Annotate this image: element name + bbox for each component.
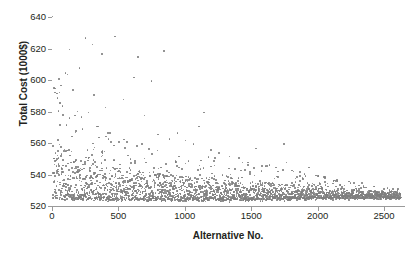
data-point: [101, 170, 103, 172]
data-point: [176, 175, 178, 177]
data-point: [361, 182, 363, 184]
data-point: [85, 176, 87, 178]
data-point: [118, 141, 120, 143]
data-point: [106, 167, 108, 169]
data-point: [72, 89, 74, 91]
data-point: [102, 152, 104, 154]
data-point: [87, 149, 89, 151]
data-point: [136, 145, 138, 147]
data-point: [235, 182, 237, 184]
data-point: [149, 175, 151, 177]
data-point: [400, 197, 402, 199]
data-point: [74, 115, 76, 117]
data-point: [228, 168, 230, 170]
data-point: [66, 198, 68, 200]
data-point: [296, 200, 298, 202]
data-point: [53, 197, 55, 199]
data-point: [120, 171, 122, 173]
data-point: [216, 195, 218, 197]
data-point: [149, 172, 151, 174]
data-point: [229, 156, 231, 158]
data-point: [100, 187, 102, 189]
data-point: [157, 134, 159, 136]
data-point: [52, 145, 54, 147]
data-point: [86, 175, 88, 177]
data-point: [218, 152, 220, 154]
data-point: [178, 196, 180, 198]
data-point: [126, 141, 128, 143]
data-point: [185, 201, 187, 203]
data-point: [70, 162, 72, 164]
data-point: [122, 175, 124, 177]
data-point: [98, 137, 100, 139]
data-point: [61, 153, 63, 155]
data-point: [360, 187, 362, 189]
data-point: [68, 169, 70, 171]
data-point: [116, 168, 118, 170]
y-tick-label: 600: [18, 75, 46, 85]
data-point: [175, 187, 177, 189]
data-point: [250, 182, 252, 184]
data-point: [58, 110, 60, 112]
data-point: [134, 162, 136, 164]
data-point: [317, 185, 319, 187]
data-point: [324, 176, 326, 178]
data-point: [63, 179, 65, 181]
data-point: [55, 192, 57, 194]
data-point: [94, 183, 96, 185]
data-point: [80, 160, 82, 162]
data-point: [109, 132, 111, 134]
data-point: [354, 189, 356, 191]
data-point: [70, 185, 72, 187]
data-point: [196, 181, 198, 183]
x-tick-label: 1500: [231, 211, 271, 221]
data-point: [113, 145, 115, 147]
data-point: [169, 189, 171, 191]
data-point: [57, 139, 59, 141]
data-point: [135, 185, 137, 187]
data-point: [142, 186, 144, 188]
scatter-chart-figure: Total Cost (1000$) Alternative No. 52054…: [0, 0, 413, 255]
data-point: [81, 181, 83, 183]
data-point: [214, 175, 216, 177]
data-point: [89, 167, 91, 169]
data-point: [191, 192, 193, 194]
data-point: [91, 154, 93, 156]
data-point: [122, 192, 124, 194]
data-point: [59, 103, 61, 105]
data-point: [175, 161, 177, 163]
data-point: [237, 180, 239, 182]
data-point: [180, 181, 182, 183]
data-point: [283, 143, 285, 145]
data-point: [299, 175, 301, 177]
data-point: [54, 180, 56, 182]
data-point: [185, 140, 187, 142]
data-point: [77, 111, 79, 113]
data-point: [287, 184, 289, 186]
data-point: [261, 165, 263, 167]
data-point: [281, 188, 283, 190]
data-point: [242, 190, 244, 192]
data-point: [229, 201, 231, 203]
data-point: [60, 85, 62, 87]
data-point: [55, 160, 57, 162]
data-point: [135, 182, 137, 184]
data-point: [159, 173, 161, 175]
data-point: [122, 185, 124, 187]
data-point: [69, 190, 71, 192]
data-point: [57, 155, 59, 157]
x-tick-label: 500: [98, 211, 138, 221]
data-point: [67, 74, 69, 76]
data-point: [392, 188, 394, 190]
data-point: [131, 179, 133, 181]
data-point: [75, 159, 77, 161]
data-point: [214, 165, 216, 167]
data-point: [101, 53, 103, 55]
data-point: [242, 184, 244, 186]
data-point: [137, 180, 139, 182]
data-point: [260, 200, 262, 202]
data-point: [61, 188, 63, 190]
data-point: [88, 112, 90, 114]
data-point: [238, 157, 240, 159]
data-point: [62, 171, 64, 173]
